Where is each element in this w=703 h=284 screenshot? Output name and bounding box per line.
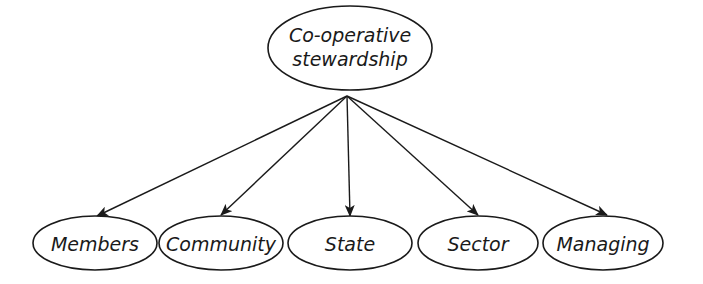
sector-label: Sector — [447, 233, 509, 255]
root-label-line-2: stewardship — [292, 48, 407, 70]
arrow-to-community — [221, 96, 347, 215]
child-node-sector: Sector — [418, 216, 538, 270]
arrow-to-sector — [347, 96, 478, 215]
root-node-co-operative-stewardship: Co-operative stewardship — [268, 6, 432, 90]
managing-label: Managing — [556, 233, 649, 255]
arrow-to-members — [97, 96, 347, 216]
child-node-managing: Managing — [543, 216, 663, 270]
edges — [97, 96, 607, 216]
state-label: State — [325, 233, 375, 255]
arrow-to-state — [347, 96, 350, 216]
community-label: Community — [166, 233, 277, 255]
members-label: Members — [51, 233, 139, 255]
child-node-members: Members — [33, 216, 157, 270]
arrow-to-managing — [347, 96, 607, 215]
root-label-line-1: Co-operative — [289, 24, 411, 46]
child-node-community: Community — [159, 216, 283, 270]
child-node-state: State — [288, 216, 412, 270]
stewardship-diagram: Co-operative stewardship Members Communi… — [0, 0, 703, 284]
